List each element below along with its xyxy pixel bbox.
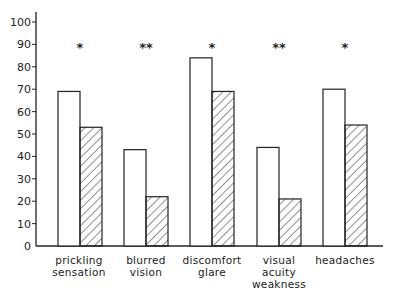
- bar-hatched: [279, 199, 301, 246]
- y-tick-label: 50: [17, 128, 31, 141]
- significance-marker: *: [77, 40, 84, 55]
- bar-hatched: [345, 125, 367, 246]
- bar-open: [323, 89, 345, 246]
- bar-open: [257, 147, 279, 246]
- bars: [58, 58, 367, 246]
- y-tick-label: 90: [17, 38, 31, 51]
- y-tick-label: 80: [17, 61, 31, 74]
- y-tick-label: 60: [17, 106, 31, 119]
- y-tick-label: 70: [17, 83, 31, 96]
- significance-marker: *: [209, 40, 216, 55]
- bar-open: [124, 150, 146, 246]
- bar-hatched: [146, 197, 168, 246]
- category-label: headaches: [305, 254, 385, 266]
- significance-marker: *: [342, 40, 349, 55]
- y-tick-label: 30: [17, 173, 31, 186]
- y-tick-label: 100: [10, 16, 31, 29]
- significance-markers: *******: [77, 40, 349, 55]
- bar-open: [58, 91, 80, 246]
- significance-marker: **: [139, 40, 153, 55]
- y-tick-label: 10: [17, 218, 31, 231]
- significance-marker: **: [272, 40, 286, 55]
- y-tick-label: 20: [17, 195, 31, 208]
- bar-open: [190, 58, 212, 246]
- y-tick-label: 0: [24, 240, 31, 253]
- bar-hatched: [80, 127, 102, 246]
- bar-hatched: [212, 91, 234, 246]
- y-tick-label: 40: [17, 150, 31, 163]
